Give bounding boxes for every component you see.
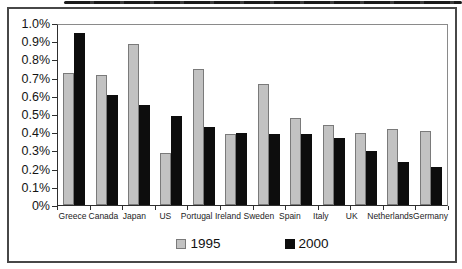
cropped-text-artifact — [64, 1, 462, 4]
bar-group-spain — [285, 25, 317, 205]
bar-2000-japan — [139, 105, 150, 205]
bar-1995-germany — [420, 131, 431, 205]
legend-label-1995: 1995 — [190, 236, 220, 251]
bar-1995-uk — [355, 133, 366, 205]
plot-area — [57, 24, 448, 206]
bar-group-canada — [90, 25, 122, 205]
bar-1995-canada — [96, 75, 107, 205]
bar-group-greece — [58, 25, 90, 205]
x-tick-mark — [57, 206, 58, 210]
y-tick-label: 0.3% — [8, 144, 50, 158]
bar-2000-italy — [334, 138, 345, 205]
screenshot-root: 1.0%0.9%0.8%0.7%0.6%0.5%0.4%0.3%0.2%0.1%… — [0, 0, 462, 269]
y-tick-mark — [52, 188, 57, 189]
x-tick-mark — [90, 206, 91, 210]
x-category-label: UK — [336, 211, 367, 221]
y-tick-label: 0% — [8, 199, 50, 213]
x-tick-mark — [448, 206, 449, 210]
y-tick-mark — [52, 97, 57, 98]
bar-2000-netherlands — [398, 162, 409, 205]
y-tick-mark — [52, 133, 57, 134]
y-tick-label: 0.6% — [8, 90, 50, 104]
bar-group-netherlands — [382, 25, 414, 205]
x-tick-mark — [383, 206, 384, 210]
y-tick-mark — [52, 42, 57, 43]
x-tick-mark — [318, 206, 319, 210]
bar-group-us — [155, 25, 187, 205]
x-axis-labels: GreeceCanadaJapanUSPortugalIrelandSweden… — [57, 211, 448, 221]
bar-2000-germany — [431, 167, 442, 205]
y-tick-label: 0.7% — [8, 72, 50, 86]
legend-item-1995: 1995 — [176, 236, 220, 251]
x-tick-mark — [187, 206, 188, 210]
bars-container — [58, 25, 447, 205]
y-tick-label: 0.9% — [8, 35, 50, 49]
x-category-label: Netherlands — [367, 211, 413, 221]
bar-group-japan — [123, 25, 155, 205]
y-tick-mark — [52, 24, 57, 25]
bar-2000-canada — [107, 95, 118, 205]
x-category-label: Portugal — [181, 211, 213, 221]
y-tick-label: 0.4% — [8, 126, 50, 140]
bar-2000-sweden — [269, 134, 280, 205]
bar-1995-italy — [323, 125, 334, 205]
y-tick-label: 1.0% — [8, 17, 50, 31]
legend-swatch-1995-icon — [176, 239, 186, 249]
bar-1995-japan — [128, 44, 139, 205]
y-tick-mark — [52, 79, 57, 80]
y-tick-mark — [52, 151, 57, 152]
x-tick-mark — [285, 206, 286, 210]
bar-1995-sweden — [258, 84, 269, 205]
y-tick-mark — [52, 115, 57, 116]
legend-swatch-2000-icon — [285, 239, 295, 249]
x-category-label: Italy — [305, 211, 336, 221]
bar-1995-portugal — [193, 69, 204, 205]
x-tick-mark — [122, 206, 123, 210]
x-category-label: Japan — [119, 211, 150, 221]
legend-label-2000: 2000 — [299, 236, 329, 251]
bar-1995-ireland — [225, 134, 236, 205]
y-tick-label: 0.1% — [8, 181, 50, 195]
bar-2000-portugal — [204, 127, 215, 205]
legend: 1995 2000 — [57, 236, 448, 251]
y-tick-label: 0.8% — [8, 53, 50, 67]
x-tick-mark — [350, 206, 351, 210]
bar-group-germany — [415, 25, 447, 205]
x-category-label: US — [150, 211, 181, 221]
bar-group-ireland — [220, 25, 252, 205]
x-tick-mark — [253, 206, 254, 210]
x-category-label: Canada — [88, 211, 119, 221]
y-tick-mark — [52, 170, 57, 171]
x-category-label: Spain — [274, 211, 305, 221]
bar-2000-uk — [366, 151, 377, 205]
bar-1995-netherlands — [387, 129, 398, 205]
bar-2000-us — [171, 116, 182, 205]
bar-group-portugal — [188, 25, 220, 205]
bar-group-uk — [350, 25, 382, 205]
bar-1995-spain — [290, 118, 301, 205]
y-tick-label: 0.2% — [8, 163, 50, 177]
bar-2000-spain — [301, 134, 312, 205]
x-category-label: Ireland — [212, 211, 243, 221]
x-tick-mark — [155, 206, 156, 210]
bar-1995-greece — [63, 73, 74, 205]
x-tick-mark — [220, 206, 221, 210]
legend-item-2000: 2000 — [285, 236, 329, 251]
bar-1995-us — [160, 153, 171, 205]
bar-2000-ireland — [236, 133, 247, 205]
x-category-label: Sweden — [243, 211, 274, 221]
y-tick-mark — [52, 60, 57, 61]
bar-group-italy — [317, 25, 349, 205]
x-category-label: Greece — [57, 211, 88, 221]
x-tick-mark — [415, 206, 416, 210]
y-tick-label: 0.5% — [8, 108, 50, 122]
bar-group-sweden — [253, 25, 285, 205]
bar-2000-greece — [74, 33, 85, 205]
x-category-label: Germany — [413, 211, 448, 221]
